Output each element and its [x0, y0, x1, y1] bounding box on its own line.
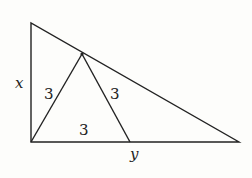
- label-middle-segment: 3: [110, 87, 120, 102]
- label-base-segment: 3: [79, 123, 89, 138]
- label-left-segment: 3: [44, 87, 54, 102]
- label-x: x: [15, 76, 23, 91]
- label-y: y: [130, 147, 138, 162]
- outer-right-triangle: [31, 23, 239, 142]
- segment-de: [82, 54, 130, 142]
- diagram: x 3 3 3 y: [0, 0, 252, 178]
- segment-bd: [31, 54, 82, 142]
- triangle-figure: [0, 0, 252, 178]
- point-d: [80, 52, 83, 55]
